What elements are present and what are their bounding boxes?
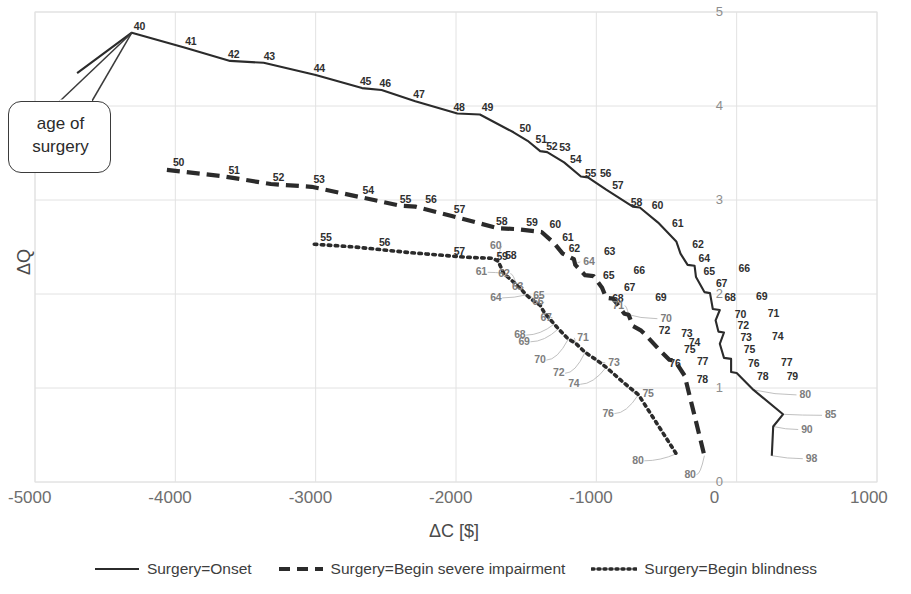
point-label: 52 — [273, 171, 284, 183]
x-tick-5: 0 — [710, 488, 719, 508]
point-label: 72 — [553, 366, 564, 378]
point-label: 67 — [624, 281, 635, 293]
point-label: 49 — [482, 101, 493, 113]
point-label: 60 — [550, 218, 561, 230]
point-label: 71 — [577, 331, 588, 343]
point-label: 71 — [613, 299, 624, 311]
point-label: 41 — [185, 35, 196, 47]
x-tick-3: -2000 — [429, 488, 472, 508]
point-label: 46 — [380, 77, 391, 89]
callout-text: age of surgery — [9, 112, 112, 158]
point-label: 51 — [228, 164, 239, 176]
point-label: 59 — [526, 216, 537, 228]
point-label: 58 — [496, 215, 507, 227]
x-axis-title: ΔC [$] — [429, 521, 479, 542]
point-label: 79 — [787, 370, 798, 382]
point-label: 50 — [520, 122, 531, 134]
point-label: 57 — [612, 179, 623, 191]
point-label: 74 — [568, 377, 579, 389]
point-label: 77 — [781, 356, 792, 368]
point-label: 67 — [540, 311, 551, 323]
chart-container: 543210 -5000-4000-3000-2000-100001000 40… — [0, 0, 911, 594]
callout-line-1: age of — [9, 112, 112, 135]
point-label: 53 — [559, 141, 570, 153]
legend-label: Surgery=Onset — [147, 560, 252, 578]
legend-swatch-dashed — [278, 563, 324, 575]
point-label: 68 — [724, 291, 735, 303]
x-tick-6: 1000 — [850, 488, 888, 508]
point-label: 62 — [569, 242, 580, 254]
point-label: 75 — [744, 343, 755, 355]
point-label: 42 — [228, 48, 239, 60]
point-label: 71 — [768, 307, 779, 319]
legend-label: Surgery=Begin blindness — [644, 560, 817, 578]
point-label: 64 — [583, 255, 594, 267]
point-label: 72 — [659, 324, 670, 336]
legend-item-2[interactable]: Surgery=Begin blindness — [591, 560, 817, 578]
point-label: 50 — [173, 156, 184, 168]
point-label: 55 — [400, 193, 411, 205]
legend-item-1[interactable]: Surgery=Begin severe impairment — [278, 560, 566, 578]
point-label: 76 — [748, 357, 759, 369]
legend-swatch-solid — [94, 563, 140, 575]
point-label: 66 — [634, 264, 645, 276]
y-tick-0: 5 — [716, 4, 723, 19]
y-tick-1: 4 — [716, 98, 723, 113]
point-label: 64 — [699, 252, 710, 264]
point-label: 78 — [697, 373, 708, 385]
point-label: 55 — [585, 167, 596, 179]
point-label: 40 — [134, 20, 145, 32]
x-tick-2: -3000 — [289, 488, 332, 508]
callout-line-2: surgery — [9, 135, 112, 158]
point-label: 69 — [655, 291, 666, 303]
point-label: 77 — [697, 355, 708, 367]
point-label: 54 — [570, 153, 581, 165]
point-label: 66 — [739, 262, 750, 274]
point-label: 74 — [772, 330, 783, 342]
y-axis-title: ΔQ — [14, 249, 35, 275]
point-label: 65 — [603, 269, 614, 281]
legend-item-0[interactable]: Surgery=Onset — [94, 560, 252, 578]
point-label: 51 — [536, 133, 547, 145]
point-label: 73 — [740, 331, 751, 343]
point-label: 76 — [602, 407, 613, 419]
point-label: 56 — [379, 236, 390, 248]
y-tick-5: 0 — [716, 474, 723, 489]
point-label: 63 — [604, 245, 615, 257]
point-label: 66 — [532, 295, 543, 307]
point-label: 48 — [453, 101, 464, 113]
chart-legend: Surgery=OnsetSurgery=Begin severe impair… — [0, 560, 911, 578]
point-label: 69 — [756, 290, 767, 302]
point-label: 61 — [672, 217, 683, 229]
point-label: 70 — [660, 312, 671, 324]
x-tick-1: -4000 — [148, 488, 191, 508]
point-label: 56 — [600, 167, 611, 179]
point-label: 76 — [669, 357, 680, 369]
point-label: 53 — [313, 173, 324, 185]
point-label: 52 — [546, 140, 557, 152]
point-label: 56 — [425, 193, 436, 205]
callout-box: age of surgery — [8, 101, 111, 173]
point-label: 80 — [800, 388, 811, 400]
callout-leader — [92, 33, 132, 101]
point-label: 80 — [632, 454, 643, 466]
point-label: 45 — [360, 75, 371, 87]
point-label: 44 — [314, 62, 325, 74]
point-label: 47 — [413, 88, 424, 100]
point-label: 80 — [684, 468, 695, 480]
point-label: 57 — [454, 245, 465, 257]
point-label: 43 — [264, 50, 275, 62]
point-label: 98 — [806, 452, 817, 464]
point-label: 67 — [716, 277, 727, 289]
point-label: 55 — [320, 231, 331, 243]
x-tick-4: -1000 — [569, 488, 612, 508]
point-label: 85 — [825, 408, 836, 420]
point-label: 59 — [496, 250, 507, 262]
point-label: 62 — [692, 238, 703, 250]
point-label: 70 — [735, 308, 746, 320]
point-label: 60 — [652, 199, 663, 211]
point-label: 70 — [534, 353, 545, 365]
point-label: 57 — [454, 203, 465, 215]
point-label: 65 — [704, 265, 715, 277]
legend-swatch-dotted — [591, 563, 637, 575]
